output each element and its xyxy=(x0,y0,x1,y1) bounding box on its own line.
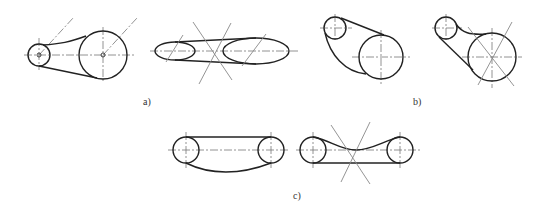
panel-c-right-drive xyxy=(296,122,420,184)
panel-a-label: a) xyxy=(143,96,151,107)
belt-drive-diagram xyxy=(0,0,540,210)
panel-b-right-drive xyxy=(432,14,522,88)
panel-a-round-pulleys xyxy=(24,17,137,83)
panel-c-left-drive xyxy=(168,132,290,172)
panel-b-left-drive xyxy=(320,14,410,86)
panel-a-ellipse-pulleys xyxy=(150,22,298,84)
panel-c-label: c) xyxy=(293,190,301,201)
panel-b-label: b) xyxy=(413,96,421,107)
